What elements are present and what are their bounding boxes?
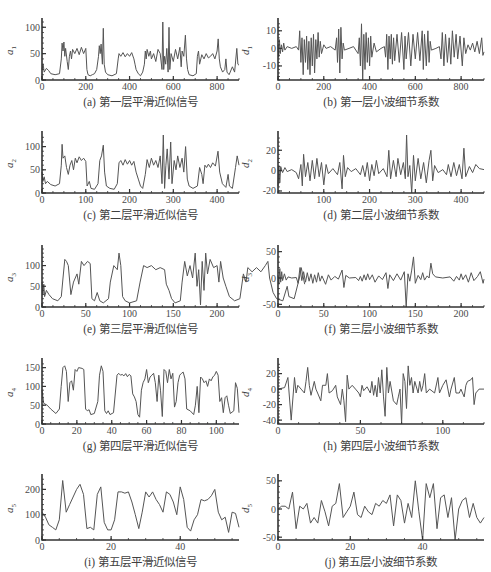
y-axis-label-subscript: 5	[246, 504, 254, 508]
axes	[278, 474, 484, 540]
data-line	[278, 481, 484, 540]
y-tick-label: -50	[263, 532, 276, 543]
y-axis-label-main: d	[238, 508, 250, 514]
subplot-caption: (j) 第五层小波细节系数	[301, 553, 461, 569]
x-tick-label: 40	[418, 541, 428, 552]
plot-area-j: 02040-50050	[0, 0, 491, 572]
subplot-j: 02040-50050d5(j) 第五层小波细节系数	[0, 0, 491, 572]
x-tick-label: 0	[276, 541, 281, 552]
y-tick-label: 0	[271, 504, 276, 515]
y-tick-label: 50	[266, 475, 276, 486]
x-tick-label: 20	[345, 541, 355, 552]
y-axis-label: d5	[238, 504, 253, 513]
